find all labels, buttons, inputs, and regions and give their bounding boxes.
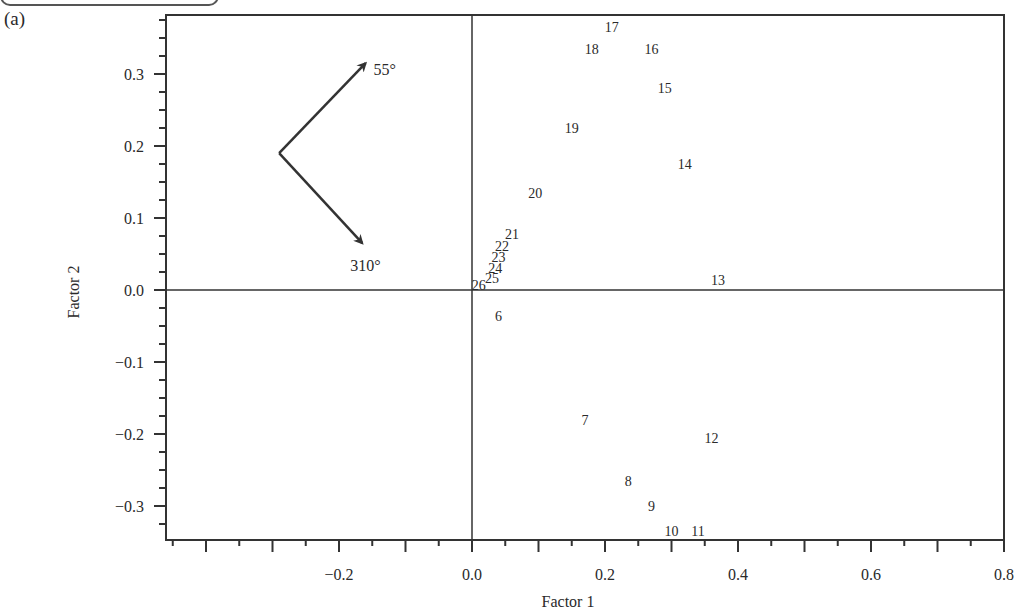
arrow-55-icon <box>279 63 365 153</box>
scatter-chart: −0.20.00.20.40.60.8−0.3−0.2−0.10.00.10.2… <box>0 0 1017 615</box>
arrow-angle-label: 310° <box>350 257 380 274</box>
data-point-label: 17 <box>605 20 619 35</box>
data-point-label: 19 <box>565 121 579 136</box>
data-point-label: 14 <box>678 157 692 172</box>
data-point-label: 15 <box>658 81 672 96</box>
axis-tick-labels: −0.20.00.20.40.60.8−0.3−0.2−0.10.00.10.2… <box>115 66 1014 583</box>
data-point-label: 11 <box>691 524 704 539</box>
axis-ticks <box>154 20 1004 552</box>
arrow-310-icon <box>279 153 362 243</box>
data-point-label: 13 <box>711 273 725 288</box>
plot-frame <box>166 15 1004 540</box>
plot-area <box>166 15 1004 540</box>
y-tick-label: 0.2 <box>124 138 144 155</box>
arrow-angle-label: 55° <box>374 61 396 78</box>
x-tick-label: 0.2 <box>595 566 615 583</box>
y-tick-label: 0.1 <box>124 210 144 227</box>
y-axis-label: Factor 2 <box>65 266 82 319</box>
x-tick-label: −0.2 <box>324 566 353 583</box>
data-point-label: 20 <box>528 186 542 201</box>
x-tick-label: 0.6 <box>861 566 881 583</box>
y-tick-label: −0.1 <box>115 354 144 371</box>
rotation-arrows: 55°310° <box>279 61 396 274</box>
data-point-label: 8 <box>625 474 632 489</box>
x-axis-label: Factor 1 <box>542 593 595 610</box>
data-point-label: 7 <box>582 413 589 428</box>
data-point-label: 9 <box>648 499 655 514</box>
y-tick-label: 0.0 <box>124 282 144 299</box>
x-tick-label: 0.4 <box>728 566 748 583</box>
data-point-label: 16 <box>645 42 659 57</box>
y-tick-label: −0.2 <box>115 426 144 443</box>
x-tick-label: 0.0 <box>462 566 482 583</box>
y-tick-label: 0.3 <box>124 66 144 83</box>
data-point-label: 6 <box>495 309 502 324</box>
data-point-label: 26 <box>472 278 486 293</box>
data-point-labels: 67891011121314151617181920212223242526 <box>472 20 725 539</box>
data-point-label: 12 <box>704 431 718 446</box>
x-tick-label: 0.8 <box>994 566 1014 583</box>
data-point-label: 25 <box>485 271 499 286</box>
data-point-label: 10 <box>665 524 679 539</box>
y-tick-label: −0.3 <box>115 498 144 515</box>
data-point-label: 18 <box>585 42 599 57</box>
